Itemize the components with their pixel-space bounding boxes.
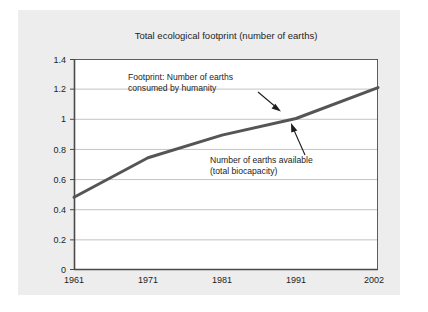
footprint-annotation-line1: Footprint: Number of earths <box>128 72 233 82</box>
x-tick-label-1991: 1991 <box>286 275 306 285</box>
x-tick-label-2002: 2002 <box>364 275 384 285</box>
y-tick-label-1.2: 1.2 <box>53 84 66 94</box>
y-tick-label-1.4: 1.4 <box>53 55 66 65</box>
y-tick-label-0.2: 0.2 <box>53 235 66 245</box>
y-axis-tick-labels: 1.4 1.2 1 0.8 0.6 0.4 0.2 0 <box>53 55 66 275</box>
y-tick-label-0.4: 0.4 <box>53 205 66 215</box>
footprint-annotation-line2: consumed by humanity <box>128 83 217 93</box>
y-tick-label-0.8: 0.8 <box>53 145 66 155</box>
biocapacity-annotation-line1: Number of earths available <box>210 155 313 165</box>
x-axis-tick-labels: 1961 1971 1981 1991 2002 <box>64 275 384 285</box>
x-tick-label-1981: 1981 <box>212 275 232 285</box>
y-tick-label-0.6: 0.6 <box>53 175 66 185</box>
y-axis-ticks <box>70 60 74 270</box>
chart-title: Total ecological footprint (number of ea… <box>135 30 318 41</box>
y-tick-label-0: 0 <box>61 265 66 275</box>
ecological-footprint-line-chart: Total ecological footprint (number of ea… <box>0 0 428 312</box>
x-tick-label-1961: 1961 <box>64 275 84 285</box>
figure-root: Total ecological footprint (number of ea… <box>0 0 428 312</box>
biocapacity-annotation-line2: (total biocapacity) <box>210 166 277 176</box>
y-tick-label-1: 1 <box>61 114 66 124</box>
x-tick-label-1971: 1971 <box>138 275 158 285</box>
